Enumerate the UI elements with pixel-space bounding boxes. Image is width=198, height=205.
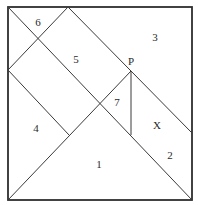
label-piece-5: 5 [73,53,79,65]
label-piece-7: 7 [114,96,120,108]
label-point-p: P [128,55,134,67]
label-piece-4: 4 [33,122,39,134]
tangram-diagram: 6 5 3 P 7 4 X 1 2 [0,0,198,205]
upper-parallel-line [68,7,192,133]
label-piece-2: 2 [167,149,173,161]
label-piece-3: 3 [152,31,158,43]
label-piece-1: 1 [96,158,102,170]
label-piece-6: 6 [35,16,41,28]
label-unknown-x: X [153,119,161,131]
